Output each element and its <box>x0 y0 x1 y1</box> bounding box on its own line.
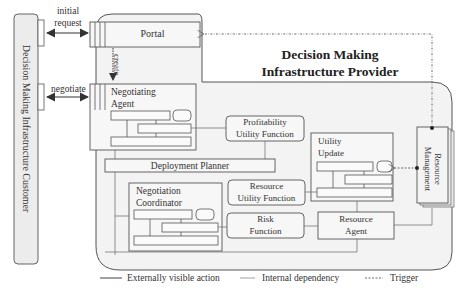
resource-agent-line1: Resource <box>318 213 394 225</box>
negotiate-label: negotiate <box>51 83 86 95</box>
negotiation-coordinator-line2: Coordinator <box>136 197 182 209</box>
customer-label: Decision Making Infrastructure Customer <box>21 23 32 235</box>
legend-internal-dependency: Internal dependency <box>262 272 339 284</box>
deployment-planner[interactable]: Deployment Planner <box>105 160 275 172</box>
diagram-canvas <box>0 0 467 299</box>
provider-title-line1: Decision Making <box>240 46 420 63</box>
resource-agent-line2: Agent <box>318 225 394 237</box>
negotiation-coordinator[interactable]: Negotiation Coordinator <box>136 185 182 209</box>
negotiating-agent-line1: Negotiating <box>111 86 156 98</box>
provider-title: Decision Making Infrastructure Provider <box>240 46 420 80</box>
utility-update-line1: Utility <box>318 135 344 147</box>
request-label-line2: request <box>48 17 88 29</box>
initial-label-line1: initial <box>48 5 88 17</box>
resource-management[interactable]: Resource Management <box>423 132 443 206</box>
resource-utility-function[interactable]: Resource Utility Function <box>228 180 305 204</box>
initial-request-label: initial request <box>48 5 88 29</box>
create-label: create <box>112 54 122 75</box>
negotiation-coordinator-line1: Negotiation <box>136 185 182 197</box>
risk-line2: Function <box>227 225 304 237</box>
negotiating-agent[interactable]: Negotiating Agent <box>111 86 156 110</box>
utility-update[interactable]: Utility Update <box>318 135 344 159</box>
provider-title-line2: Infrastructure Provider <box>240 63 420 80</box>
profitability-line1: Profitability <box>226 116 304 128</box>
resource-agent[interactable]: Resource Agent <box>318 213 394 237</box>
risk-line1: Risk <box>227 213 304 225</box>
legend-trigger: Trigger <box>390 272 418 284</box>
profitability-line2: Utility Function <box>226 128 304 140</box>
legend-externally-visible: Externally visible action <box>127 272 220 284</box>
profitability-utility-function[interactable]: Profitability Utility Function <box>226 116 304 140</box>
resource-utility-line1: Resource <box>228 180 305 192</box>
utility-update-line2: Update <box>318 147 344 159</box>
portal[interactable]: Portal <box>105 28 200 40</box>
risk-function[interactable]: Risk Function <box>227 213 304 237</box>
resource-utility-line2: Utility Function <box>228 192 305 204</box>
negotiating-agent-line2: Agent <box>111 98 156 110</box>
